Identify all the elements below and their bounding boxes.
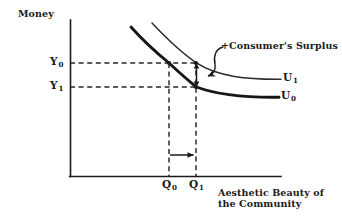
y-tick-label-y1-sub: 1 xyxy=(58,84,64,93)
x-tick-label-q0-base: Q xyxy=(162,178,171,190)
x-tick-label-q1: Q1 xyxy=(189,179,204,191)
curve-label-u1-sub: 1 xyxy=(292,76,298,85)
curve-label-u0-sub: 0 xyxy=(290,94,296,103)
indifference-curve-figure: Money Y0 Y1 Q0 Q1 U1 U0 +Consumer's Surp… xyxy=(0,0,342,219)
curve-label-u1-base: U xyxy=(283,71,292,83)
x-tick-label-q1-sub: 1 xyxy=(198,183,204,192)
consumer-surplus-annotation: +Consumer's Surplus xyxy=(221,41,338,52)
y-tick-label-y0-sub: 0 xyxy=(58,60,64,69)
y-tick-label-y0: Y0 xyxy=(50,56,63,68)
curve-label-u0-base: U xyxy=(281,89,290,101)
guide-lines xyxy=(70,62,198,176)
y-tick-label-y1: Y1 xyxy=(50,80,63,92)
x-axis-label: Aesthetic Beauty ofthe Community xyxy=(218,188,324,209)
x-axis-label-line2: the Community xyxy=(218,198,301,209)
x-tick-label-q1-base: Q xyxy=(189,178,198,190)
point-q0-y0 xyxy=(167,61,171,65)
x-axis-label-line1: Aesthetic Beauty of xyxy=(218,187,324,198)
y-tick-label-y0-base: Y xyxy=(50,55,58,67)
curve-label-u0: U0 xyxy=(281,90,296,102)
y-tick-label-y1-base: Y xyxy=(50,79,58,91)
surplus-gap-arrow-group xyxy=(194,63,200,86)
x-tick-label-q0: Q0 xyxy=(162,179,177,191)
x-tick-label-q0-sub: 0 xyxy=(171,183,177,192)
y-axis-label: Money xyxy=(18,9,54,20)
curve-label-u1: U1 xyxy=(283,72,298,84)
curve-u0 xyxy=(131,27,279,97)
